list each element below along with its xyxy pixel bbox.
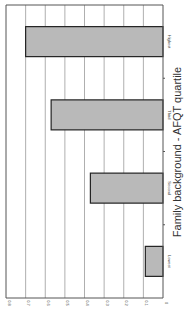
value-tick-label: 0.6	[46, 300, 51, 306]
value-tick-label: 0.5	[65, 300, 70, 306]
bar-highest	[26, 27, 163, 57]
value-tick-label: 0.7	[26, 300, 31, 306]
x-axis-title: Family background - AFQT quartile	[171, 67, 183, 237]
value-tick-labels: 00.10.20.30.40.50.60.70.8	[7, 300, 169, 306]
bar-third	[51, 100, 163, 130]
bar-second	[90, 173, 163, 203]
bars	[26, 27, 163, 277]
value-tick-label: 0.4	[85, 300, 90, 306]
category-label: Highest	[167, 35, 172, 49]
value-tick-label: 0.3	[105, 300, 110, 306]
value-tick-label: 0	[164, 302, 169, 305]
value-tick-label: 0.2	[124, 300, 129, 306]
value-tick-label: 0.8	[7, 300, 12, 306]
bar-chart: 00.10.20.30.40.50.60.70.8 LowestSecondTh…	[0, 0, 187, 311]
category-label: Lowest	[167, 255, 172, 269]
value-tick-label: 0.1	[144, 300, 149, 306]
bar-lowest	[145, 246, 163, 276]
